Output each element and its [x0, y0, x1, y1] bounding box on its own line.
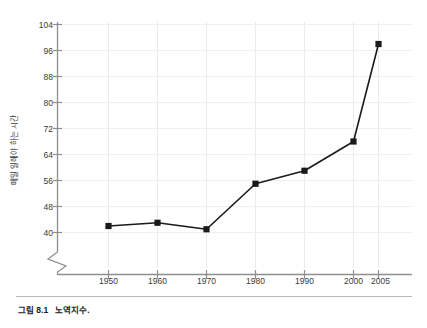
x-tick-label: 1950 — [89, 277, 129, 286]
caption-figure-number: 그림 8.1 — [18, 305, 48, 315]
data-markers — [105, 41, 381, 232]
x-tick-label: 1960 — [138, 277, 178, 286]
y-tick-label: 56 — [27, 177, 53, 186]
y-tick-label: 96 — [27, 47, 53, 56]
y-tick-label: 72 — [27, 125, 53, 134]
y-tick-label: 80 — [27, 99, 53, 108]
data-line — [109, 44, 379, 229]
y-tick-label: 64 — [27, 151, 53, 160]
y-axis-title: 매일 일해야 하는 시간 — [6, 90, 20, 210]
x-tick-label: 2005 — [361, 277, 401, 286]
data-point-marker — [105, 223, 111, 229]
y-tick-label: 40 — [27, 229, 53, 238]
x-axis-tick-labels: 1950 1960 1970 1980 1990 2000 2005 — [0, 277, 427, 291]
caption-text: 노역지수. — [55, 305, 89, 315]
grid-horizontal — [58, 25, 412, 233]
x-tick-label: 1990 — [285, 277, 325, 286]
x-tick-label: 1980 — [236, 277, 276, 286]
x-tick-label: 1970 — [187, 277, 227, 286]
data-point-marker — [375, 41, 381, 47]
figure-caption: 그림 8.1노역지수. — [18, 303, 90, 315]
y-tick-label: 88 — [27, 73, 53, 82]
data-point-marker — [350, 138, 356, 144]
figure-container: 104 96 88 80 72 64 56 48 40 매일 일해야 하는 시간… — [0, 0, 427, 328]
caption-divider — [16, 296, 412, 297]
data-point-marker — [203, 226, 209, 232]
data-point-marker — [252, 181, 258, 187]
y-axis-title-text: 매일 일해야 하는 시간 — [8, 115, 19, 184]
y-tick-label: 48 — [27, 203, 53, 212]
data-point-marker — [301, 168, 307, 174]
grid-vertical — [109, 22, 379, 268]
data-point-marker — [154, 220, 160, 226]
y-tick-label: 104 — [27, 21, 53, 30]
